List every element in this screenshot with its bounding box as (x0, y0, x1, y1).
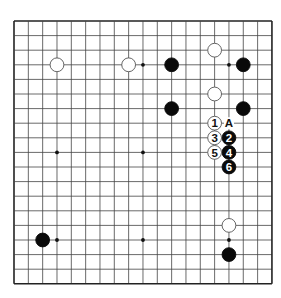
white-stone (222, 219, 236, 233)
black-stone (222, 248, 236, 262)
move-2-black-stone: 2 (222, 131, 236, 145)
white-stone (50, 58, 64, 72)
black-stone (165, 58, 179, 72)
white-stone (122, 58, 136, 72)
move-1-white-stone: 1 (208, 116, 222, 130)
move-number: 2 (226, 132, 232, 144)
move-6-black-stone: 6 (222, 160, 236, 174)
black-stone (236, 58, 250, 72)
move-3-white-stone: 3 (208, 131, 222, 145)
move-5-white-stone: 5 (208, 146, 222, 160)
star-point (227, 238, 231, 242)
move-number: 3 (211, 132, 217, 144)
star-point (227, 63, 231, 67)
go-board: 123456 A (0, 0, 281, 298)
board-labels: A (224, 117, 234, 129)
black-stone (36, 233, 50, 247)
star-point (55, 238, 59, 242)
white-stone (208, 43, 222, 57)
move-4-black-stone: 4 (222, 146, 236, 160)
star-point (141, 238, 145, 242)
star-point (141, 63, 145, 67)
white-stone (208, 87, 222, 101)
black-stone (165, 102, 179, 116)
star-point (55, 151, 59, 155)
move-number: 5 (211, 147, 218, 159)
black-stone (236, 102, 250, 116)
move-number: 6 (226, 161, 232, 173)
label-A: A (225, 117, 233, 129)
move-number: 4 (226, 147, 233, 159)
star-point (141, 151, 145, 155)
move-number: 1 (211, 117, 218, 129)
